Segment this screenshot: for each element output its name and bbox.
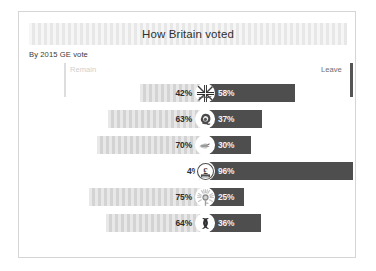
union-jack-icon — [195, 83, 215, 103]
remain-value-label: 42% — [176, 88, 192, 98]
leave-segment: 58% — [205, 84, 295, 102]
leave-value-label: 30% — [218, 140, 234, 150]
remain-segment: 75% — [89, 188, 205, 206]
remain-value-label: 63% — [176, 114, 192, 124]
bar-row: 4%96%£UKIP — [19, 162, 357, 180]
remain-value-label: 70% — [176, 140, 192, 150]
chart-card: How Britain voted By 2015 GE vote Remain… — [18, 11, 356, 258]
chart-subtitle: By 2015 GE vote — [29, 50, 88, 59]
leave-value-label: 37% — [218, 114, 234, 124]
remain-segment: 70% — [97, 136, 205, 154]
bar-row: 64%36% — [19, 214, 357, 232]
libdem-bird-icon — [195, 135, 215, 155]
screenshot-root: How Britain voted By 2015 GE vote Remain… — [0, 0, 376, 271]
leave-value-label: 58% — [218, 88, 234, 98]
bar-row: 63%37% — [19, 110, 357, 128]
remain-value-label: 75% — [176, 192, 192, 202]
bar-row: 75%25% — [19, 188, 357, 206]
remain-axis-label: Remain — [70, 65, 96, 74]
bar-row: 70%30% — [19, 136, 357, 154]
leave-axis-label: Leave — [321, 65, 342, 74]
snp-thistle-icon — [195, 213, 215, 233]
leave-value-label: 36% — [218, 218, 234, 228]
page-title: How Britain voted — [142, 28, 234, 40]
ukip-pound-icon: £UKIP — [195, 161, 215, 181]
green-sunflower-icon — [195, 187, 215, 207]
svg-text:UKIP: UKIP — [202, 174, 209, 177]
diverging-bar-plot: 42%58%63%37%70%30%4%96%£UKIP75%25%64%36% — [19, 84, 357, 254]
remain-value-label: 64% — [176, 218, 192, 228]
leave-segment: 96% — [205, 162, 353, 180]
remain-segment: 63% — [108, 110, 205, 128]
remain-segment: 64% — [106, 214, 205, 232]
bar-row: 42%58% — [19, 84, 357, 102]
labour-rose-icon — [195, 109, 215, 129]
leave-value-label: 25% — [218, 192, 234, 202]
leave-value-label: 96% — [218, 166, 234, 176]
chart-title-bar: How Britain voted — [29, 23, 347, 45]
